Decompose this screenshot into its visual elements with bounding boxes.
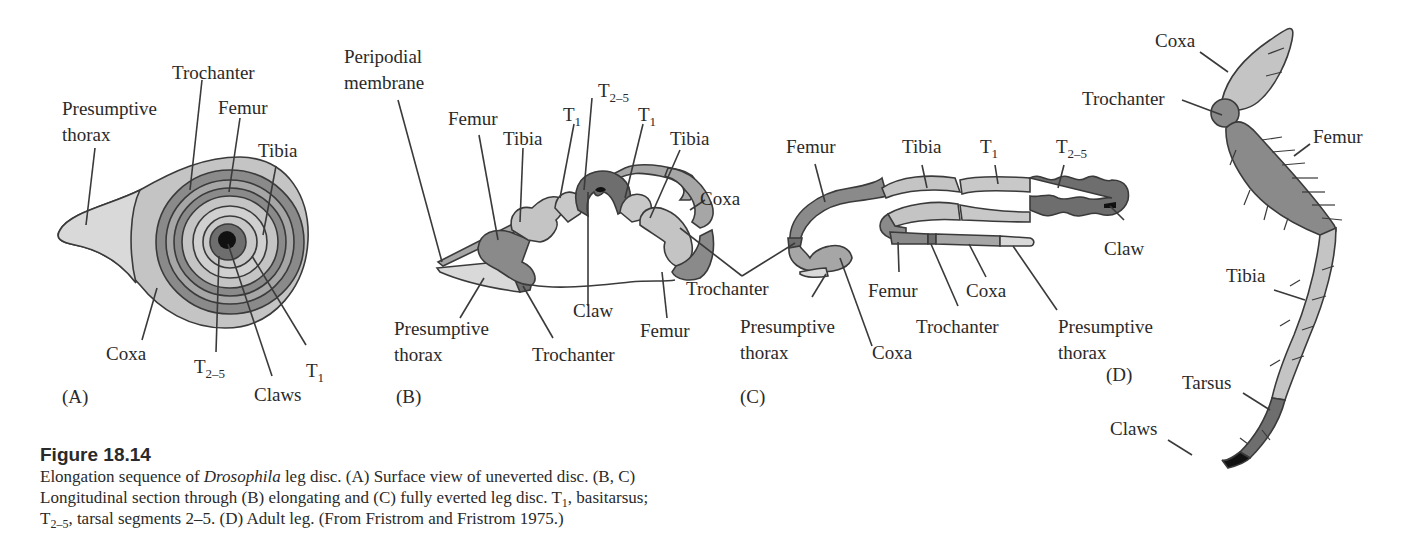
label-a-femur: Femur bbox=[218, 97, 268, 118]
panel-d-adult-leg-drawing bbox=[1168, 28, 1342, 468]
label-a-claws: Claws bbox=[254, 384, 302, 405]
label-a-trochanter: Trochanter bbox=[172, 62, 255, 83]
label-b-femur-bottom: Femur bbox=[640, 320, 690, 341]
label-c-femur-top: Femur bbox=[786, 136, 836, 157]
label-a-presumptive-thorax-1: Presumptive bbox=[62, 98, 157, 119]
label-c-femur-bottom: Femur bbox=[868, 280, 918, 301]
label-a-t2-5: T2–5 bbox=[194, 356, 225, 377]
label-c-presumptive-thorax-left-1: Presumptive bbox=[740, 316, 835, 337]
label-a-coxa: Coxa bbox=[106, 343, 146, 364]
figure-number: Figure 18.14 bbox=[40, 444, 860, 466]
panel-d-letter: (D) bbox=[1106, 364, 1132, 386]
figure-18-14: Presumptive thorax Trochanter Femur Tibi… bbox=[0, 0, 1423, 549]
label-d-coxa: Coxa bbox=[1155, 30, 1195, 51]
label-d-trochanter: Trochanter bbox=[1082, 88, 1165, 109]
label-c-t1: T1 bbox=[980, 136, 998, 157]
label-d-tarsus: Tarsus bbox=[1182, 372, 1231, 393]
panel-b-section-drawing bbox=[398, 98, 714, 338]
label-a-presumptive-thorax-2: thorax bbox=[62, 124, 111, 145]
label-b-claw: Claw bbox=[573, 300, 613, 321]
label-b-peripodial-2: membrane bbox=[344, 72, 424, 93]
label-d-femur: Femur bbox=[1313, 126, 1363, 147]
panel-c-letter: (C) bbox=[740, 386, 765, 408]
caption-line-1: Elongation sequence of Drosophila leg di… bbox=[40, 466, 860, 487]
label-c-tibia: Tibia bbox=[902, 136, 941, 157]
label-a-t1: T1 bbox=[306, 360, 324, 381]
label-c-presumptive-thorax-right-1: Presumptive bbox=[1058, 316, 1153, 337]
label-b-peripodial-1: Peripodial bbox=[344, 46, 422, 67]
label-c-presumptive-thorax-left-2: thorax bbox=[740, 342, 789, 363]
label-c-claw: Claw bbox=[1104, 238, 1144, 259]
label-b-t1-left: T1 bbox=[563, 104, 581, 125]
label-c-coxa-left: Coxa bbox=[872, 342, 912, 363]
label-b-coxa: Coxa bbox=[700, 188, 740, 209]
label-c-coxa-right: Coxa bbox=[966, 280, 1006, 301]
label-b-femur-top: Femur bbox=[448, 108, 498, 129]
label-c-trochanter-right: Trochanter bbox=[916, 316, 999, 337]
label-c-presumptive-thorax-right-2: thorax bbox=[1058, 342, 1107, 363]
label-b-tibia-left: Tibia bbox=[503, 128, 542, 149]
label-d-tibia: Tibia bbox=[1226, 265, 1265, 286]
panel-b-letter: (B) bbox=[396, 386, 421, 408]
label-c-t2-5: T2–5 bbox=[1056, 136, 1087, 157]
caption-line-2: Longitudinal section through (B) elongat… bbox=[40, 487, 860, 508]
label-b-presumptive-thorax-2: thorax bbox=[394, 344, 443, 365]
label-b-trochanter: Trochanter bbox=[532, 344, 615, 365]
caption-line-3: T2–5, tarsal segments 2–5. (D) Adult leg… bbox=[40, 508, 860, 529]
label-b-tibia-right: Tibia bbox=[670, 128, 709, 149]
label-c-trochanter-shared: Trochanter bbox=[686, 278, 769, 299]
figure-caption: Figure 18.14 Elongation sequence of Dros… bbox=[40, 444, 860, 529]
panel-a-letter: (A) bbox=[62, 386, 88, 408]
label-d-claws: Claws bbox=[1110, 418, 1158, 439]
label-b-presumptive-thorax-1: Presumptive bbox=[394, 318, 489, 339]
label-b-t1-right: T1 bbox=[638, 104, 656, 125]
label-b-t2-5: T2–5 bbox=[598, 80, 629, 101]
label-a-tibia: Tibia bbox=[258, 140, 297, 161]
